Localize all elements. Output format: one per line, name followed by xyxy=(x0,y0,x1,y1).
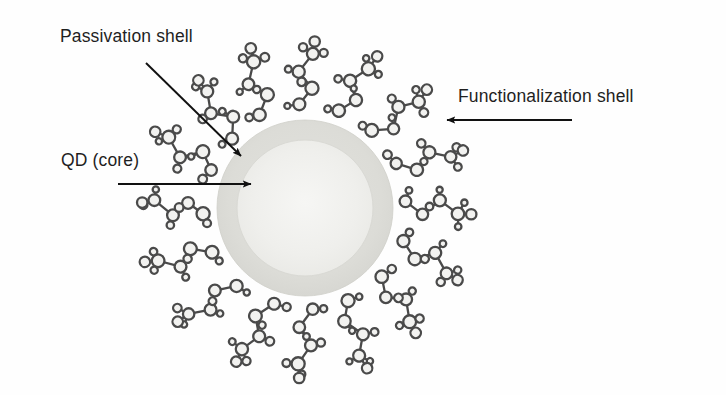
molecule-atom xyxy=(378,289,394,305)
molecule-atom xyxy=(155,137,163,145)
molecule-atom xyxy=(172,163,183,174)
molecule-atom xyxy=(400,195,412,207)
ligand-1 xyxy=(284,36,327,110)
molecule-atom xyxy=(281,302,292,313)
molecule-atom xyxy=(251,107,267,123)
molecule-atom xyxy=(225,108,242,125)
molecule-atom xyxy=(194,143,211,160)
molecule-atom xyxy=(285,66,292,73)
ligand-3 xyxy=(357,69,443,155)
ligand-12 xyxy=(136,225,224,294)
molecule-atom xyxy=(175,203,184,212)
molecule-atom xyxy=(348,327,356,335)
molecule-atom xyxy=(148,125,162,139)
ligand-14 xyxy=(139,116,228,188)
molecule-atom xyxy=(307,303,318,314)
molecule-atom xyxy=(461,199,467,205)
molecule-atom xyxy=(374,70,383,79)
molecule-atom xyxy=(149,247,159,257)
molecule-atom xyxy=(229,355,243,369)
ligand-11 xyxy=(164,260,251,347)
molecule-atom xyxy=(405,227,415,237)
molecule-atom xyxy=(453,265,462,274)
qd-core-label: QD (core) xyxy=(61,152,139,170)
molecule-atom xyxy=(452,208,465,221)
molecule-atom xyxy=(181,273,190,282)
molecule-atom xyxy=(355,327,371,343)
molecule-atom xyxy=(153,186,159,192)
molecule-atom xyxy=(309,36,319,46)
molecule-atom xyxy=(297,78,305,86)
ligand-13 xyxy=(137,186,211,229)
molecule-atom xyxy=(167,221,174,228)
quantum-dot-diagram: Passivation shell QD (core) Functionaliz… xyxy=(0,0,726,395)
molecule-atom xyxy=(303,333,310,340)
molecule-atom xyxy=(386,121,402,137)
molecule-atom xyxy=(317,339,325,347)
molecule-atom xyxy=(320,305,327,312)
molecule-atom xyxy=(236,88,244,96)
molecule-atom xyxy=(411,85,421,95)
molecule-atom xyxy=(305,340,317,352)
molecule-atom xyxy=(362,54,370,62)
molecule-atom xyxy=(266,296,281,311)
molecule-atom xyxy=(215,256,224,265)
molecule-atom xyxy=(355,293,363,301)
molecule-atom xyxy=(292,357,305,370)
molecule-atom xyxy=(137,197,147,207)
molecule-atom xyxy=(437,187,443,193)
molecule-atom xyxy=(340,292,357,309)
molecule-atom xyxy=(320,49,328,57)
molecule-atom xyxy=(331,103,347,119)
molecule-atom xyxy=(293,66,305,78)
molecule-atom xyxy=(426,203,434,211)
molecule-atom xyxy=(171,302,183,314)
ligand-10 xyxy=(221,288,292,378)
ligand-5 xyxy=(400,187,477,230)
molecule-atom xyxy=(207,282,224,299)
molecule-atom xyxy=(455,223,462,230)
molecule-atom xyxy=(293,98,305,110)
diagram-canvas xyxy=(0,0,726,395)
ligand-2 xyxy=(321,40,389,127)
molecule-atom xyxy=(203,219,211,227)
molecule-atom xyxy=(323,104,332,113)
molecule-atom xyxy=(351,348,367,364)
molecule-atom xyxy=(138,255,152,269)
molecule-atom xyxy=(419,157,428,166)
molecule-atom xyxy=(149,265,158,274)
molecule-atom xyxy=(149,194,161,206)
molecule-atom xyxy=(466,209,476,219)
molecule-atom xyxy=(282,359,290,367)
molecule-atom xyxy=(305,82,318,95)
molecule-atom xyxy=(294,321,306,333)
molecule-atom xyxy=(453,162,463,172)
molecule-atom xyxy=(294,373,304,383)
molecule-atom xyxy=(241,356,252,367)
molecule-atom xyxy=(307,48,319,60)
molecule-atom xyxy=(434,194,446,206)
molecule-atom xyxy=(244,42,258,56)
ligand-6 xyxy=(387,224,474,293)
molecule-atom xyxy=(244,112,254,122)
molecule-atom xyxy=(228,337,237,346)
molecule-atom xyxy=(252,85,262,95)
molecule-atom xyxy=(299,43,307,51)
molecule-atom xyxy=(370,327,380,337)
molecule-atom xyxy=(439,239,448,248)
ligand-9 xyxy=(282,303,327,383)
molecule-atom xyxy=(350,85,358,93)
molecule-atom xyxy=(348,92,364,108)
molecule-atom xyxy=(172,150,188,166)
functionalization-shell-label: Functionalization shell xyxy=(458,88,634,106)
quantum-dot-particle xyxy=(217,120,393,296)
molecule-atom xyxy=(257,320,266,329)
qd-core-sphere xyxy=(237,140,373,276)
molecule-atom xyxy=(345,357,353,365)
passivation-shell-label: Passivation shell xyxy=(60,28,193,46)
molecule-atom xyxy=(187,152,195,160)
molecule-atom xyxy=(284,103,290,109)
molecule-atom xyxy=(419,82,434,97)
molecule-atom xyxy=(333,74,343,84)
molecule-atom xyxy=(406,187,413,194)
